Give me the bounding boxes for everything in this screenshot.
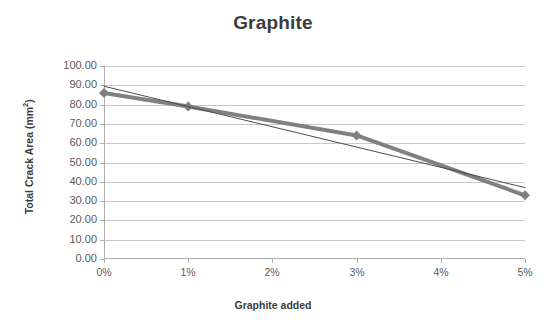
plot-area — [104, 66, 525, 259]
chart-title: Graphite — [0, 12, 546, 34]
y-tick-label: 0.00 — [37, 252, 97, 264]
y-axis-title-superscript: 2 — [21, 103, 30, 107]
y-tick-label: 30.00 — [37, 194, 97, 206]
x-tick-mark — [441, 259, 442, 263]
chart-container: Graphite Total Crack Area (mm2) Graphite… — [0, 0, 546, 324]
data-point-marker — [520, 190, 530, 200]
x-tick-label: 2% — [252, 266, 292, 278]
x-tick-label: 0% — [84, 266, 124, 278]
data-point-marker — [352, 130, 362, 140]
y-tick-label: 20.00 — [37, 213, 97, 225]
x-tick-mark — [525, 259, 526, 263]
y-tick-label: 50.00 — [37, 156, 97, 168]
x-tick-label: 5% — [505, 266, 545, 278]
series-line — [104, 93, 525, 195]
y-tick-label: 70.00 — [37, 117, 97, 129]
series-plot — [104, 66, 525, 259]
y-tick-label: 10.00 — [37, 233, 97, 245]
y-tick-label: 90.00 — [37, 78, 97, 90]
x-tick-mark — [272, 259, 273, 263]
x-tick-label: 4% — [421, 266, 461, 278]
y-tick-label: 80.00 — [37, 98, 97, 110]
y-tick-label: 40.00 — [37, 175, 97, 187]
x-tick-label: 3% — [337, 266, 377, 278]
x-tick-mark — [188, 259, 189, 263]
x-axis-title: Graphite added — [0, 299, 546, 311]
y-axis-title-tail: ) — [23, 99, 35, 103]
y-axis-title-base: Total Crack Area (mm — [23, 107, 35, 214]
y-axis-title: Total Crack Area (mm2) — [21, 67, 35, 247]
x-tick-mark — [104, 259, 105, 263]
data-point-marker — [99, 88, 109, 98]
x-tick-mark — [357, 259, 358, 263]
x-tick-label: 1% — [168, 266, 208, 278]
y-tick-label: 60.00 — [37, 136, 97, 148]
y-tick-label: 100.00 — [37, 59, 97, 71]
trendline — [104, 86, 525, 187]
